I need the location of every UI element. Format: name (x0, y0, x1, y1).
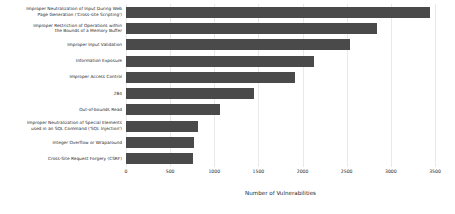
x-axis-tick-label: 500 (166, 169, 175, 174)
x-axis-tick-label: 3500 (429, 169, 441, 174)
y-axis-category-label: Improper Access Control (0, 69, 124, 85)
y-axis-category-label: Information Exposure (0, 53, 124, 69)
y-axis-category-label: Improper Restriction of Operations withi… (0, 20, 124, 36)
bar[interactable] (126, 121, 198, 132)
bar[interactable] (126, 137, 194, 148)
bar-row[interactable] (126, 20, 435, 36)
bar-row[interactable] (126, 4, 435, 20)
bar-row[interactable] (126, 37, 435, 53)
x-axis: 0500100015002000250030003500 (126, 167, 435, 179)
bar[interactable] (126, 23, 377, 34)
x-axis-tick-label: 2500 (341, 169, 353, 174)
y-axis-category-label: 284 (0, 85, 124, 101)
bar[interactable] (126, 104, 220, 115)
x-axis-tick-label: 2000 (297, 169, 309, 174)
bar-row[interactable] (126, 151, 435, 167)
y-axis-category-label: Out-of-bounds Read (0, 102, 124, 118)
bar[interactable] (126, 39, 350, 50)
gridline (435, 4, 436, 167)
bar-row[interactable] (126, 69, 435, 85)
x-axis-tick-label: 0 (125, 169, 128, 174)
bar[interactable] (126, 88, 254, 99)
y-axis-category-labels: Improper Neutralization of Input During … (0, 4, 124, 167)
bar-row[interactable] (126, 118, 435, 134)
x-axis-tick-label: 1500 (253, 169, 265, 174)
y-axis-category-label: Improper Neutralization of Special Eleme… (0, 118, 124, 134)
bar-chart: Improper Neutralization of Input During … (0, 0, 455, 214)
bar-row[interactable] (126, 102, 435, 118)
bar[interactable] (126, 56, 314, 67)
bar-row[interactable] (126, 53, 435, 69)
bar[interactable] (126, 72, 295, 83)
y-axis-category-label: Cross-Site Request Forgery (CSRF) (0, 151, 124, 167)
x-axis-title: Number of Vulnerabilities (126, 190, 435, 196)
bar-rows (126, 4, 435, 167)
y-axis-category-label: Integer Overflow or Wraparound (0, 134, 124, 150)
plot-area (126, 4, 435, 167)
y-axis-category-label: Improper Neutralization of Input During … (0, 4, 124, 20)
x-axis-tick-label: 3000 (385, 169, 397, 174)
x-axis-tick-label: 1000 (208, 169, 220, 174)
bar[interactable] (126, 153, 193, 164)
bar-row[interactable] (126, 85, 435, 101)
bar[interactable] (126, 7, 430, 18)
y-axis-category-label: Improper Input Validation (0, 37, 124, 53)
bar-row[interactable] (126, 134, 435, 150)
